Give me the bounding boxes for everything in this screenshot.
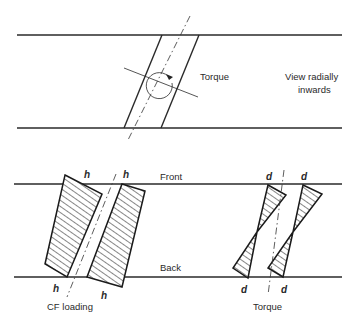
torque-caption: Torque: [253, 301, 282, 312]
torque-section: d d d d Torque: [233, 170, 322, 312]
torque-bottom-label-1: d: [241, 284, 248, 295]
front-label: Front: [160, 171, 183, 182]
view-label-line2: inwards: [298, 84, 331, 95]
bottom-view: Front Back h h h h CF loading d d d d To…: [14, 169, 342, 312]
cf-top-label-2: h: [123, 169, 129, 180]
back-label: Back: [160, 262, 181, 273]
torque-tri-left-top: [257, 185, 286, 232]
cf-loading-caption: CF loading: [47, 301, 93, 312]
view-label-line1: View radially: [285, 71, 338, 82]
cf-loading-section: h h h h CF loading: [45, 169, 145, 312]
torque-top-label-1: d: [266, 171, 273, 182]
cf-bottom-label-2: h: [101, 290, 107, 301]
top-view: Torque View radially inwards: [17, 16, 342, 140]
blade-right-edge: [161, 35, 199, 128]
torque-label: Torque: [200, 71, 229, 82]
blade-left-edge: [124, 35, 162, 128]
blade-stress-diagram: Torque View radially inwards Front Back …: [0, 0, 356, 325]
torque-tri-right-bottom: [268, 232, 293, 277]
cf-bottom-label-1: h: [53, 283, 59, 294]
torque-tri-left-bottom: [233, 232, 257, 278]
cf-top-label-1: h: [84, 169, 90, 180]
torque-top-label-2: d: [301, 171, 308, 182]
torque-bottom-label-2: d: [281, 284, 288, 295]
torque-tri-right-top: [293, 185, 322, 232]
